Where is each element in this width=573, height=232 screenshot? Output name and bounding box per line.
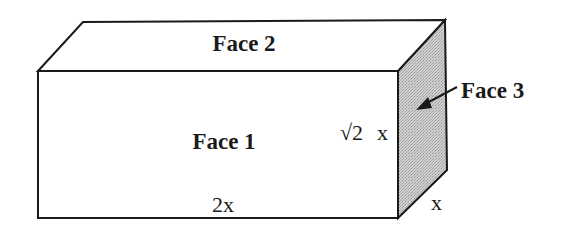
face-1-label: Face 1 (192, 129, 255, 154)
height-variable: x (377, 120, 388, 145)
face-3-label: Face 3 (461, 78, 524, 103)
length-label: 2x (212, 192, 234, 217)
prism-diagram: Face 2 Face 1 Face 3 √2 x 2x x (0, 0, 573, 232)
face-2-label: Face 2 (212, 31, 275, 56)
height-radical: √2 (340, 120, 363, 145)
depth-label: x (431, 190, 442, 215)
